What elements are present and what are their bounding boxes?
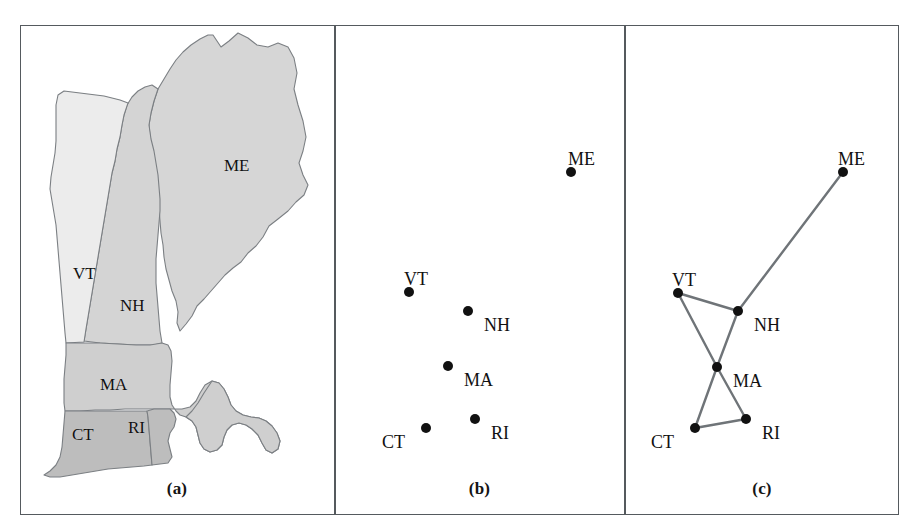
panel-c-graph: MEVTNHMARICT (c) (625, 25, 899, 515)
scatter-label-vt: VT (404, 270, 428, 288)
scatter-node-ri[interactable] (470, 414, 480, 424)
map-label-ma: MA (100, 376, 127, 393)
panel-b-scatter: MEVTNHMARICT (b) (335, 25, 624, 515)
map-label-nh: NH (120, 297, 145, 314)
scatter-label-me: ME (568, 150, 595, 168)
new-england-map (20, 25, 334, 515)
centroid-scatter-plot (335, 25, 624, 515)
panel-a-caption: (a) (20, 479, 334, 499)
graph-label-me: ME (838, 150, 865, 168)
graph-label-ri: RI (762, 424, 780, 442)
map-region-ma-cape (186, 381, 280, 453)
graph-edge-me-nh (738, 172, 843, 311)
map-label-me: ME (224, 157, 250, 174)
panel-b-caption: (b) (335, 479, 624, 499)
map-label-ct: CT (72, 426, 94, 443)
scatter-node-ma[interactable] (443, 361, 453, 371)
map-region-me (149, 33, 308, 331)
graph-node-ri[interactable] (741, 414, 751, 424)
graph-edge-ma-ct (695, 367, 717, 428)
graph-node-ma[interactable] (712, 362, 722, 372)
scatter-node-ct[interactable] (421, 423, 431, 433)
scatter-label-ri: RI (491, 424, 509, 442)
scatter-label-nh: NH (484, 316, 510, 334)
graph-label-nh: NH (754, 316, 780, 334)
graph-node-ct[interactable] (690, 423, 700, 433)
figure-container: MEVTNHMACTRI (a) MEVTNHMARICT (b) MEVTNH… (0, 0, 913, 531)
graph-label-vt: VT (672, 271, 696, 289)
panel-a-map: MEVTNHMACTRI (a) (20, 25, 334, 515)
scatter-label-ct: CT (382, 433, 405, 451)
map-label-ri: RI (128, 419, 145, 436)
graph-label-ma: MA (733, 372, 762, 390)
scatter-label-ma: MA (464, 371, 493, 389)
map-label-vt: VT (73, 265, 96, 282)
graph-edge-nh-ma (717, 311, 738, 367)
graph-edge-ct-ri (695, 419, 746, 428)
panel-c-caption: (c) (625, 479, 899, 499)
scatter-node-nh[interactable] (463, 306, 473, 316)
graph-label-ct: CT (651, 433, 674, 451)
graph-node-nh[interactable] (733, 306, 743, 316)
map-region-ri (147, 409, 176, 465)
